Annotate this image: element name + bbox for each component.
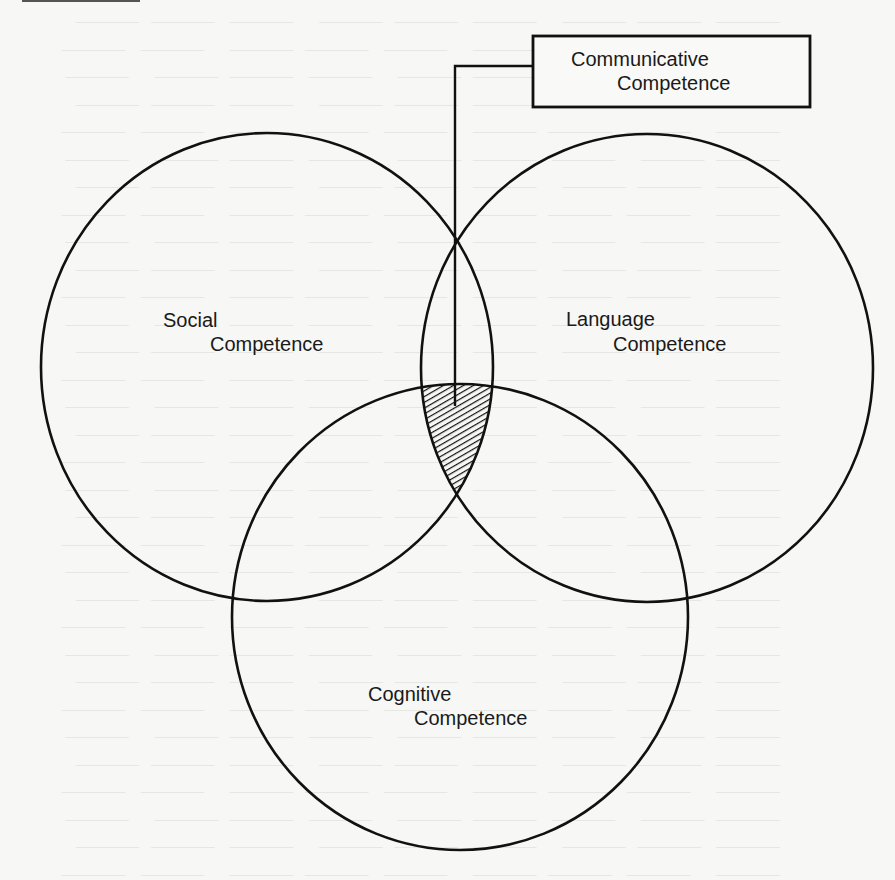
box-label-line1: Communicative: [571, 47, 709, 71]
language-label-line2: Competence: [613, 332, 726, 356]
hatched-intersection: [232, 384, 688, 850]
social-label-line2: Competence: [210, 332, 323, 356]
cognitive-label-line2: Competence: [414, 706, 527, 730]
social-competence-circle: [41, 133, 493, 601]
box-label-line2: Competence: [617, 71, 730, 95]
venn-diagram: [0, 0, 895, 880]
social-label-line1: Social: [163, 308, 217, 332]
language-competence-circle: [421, 134, 873, 602]
language-label-line1: Language: [566, 307, 655, 331]
cognitive-label-line1: Cognitive: [368, 682, 451, 706]
